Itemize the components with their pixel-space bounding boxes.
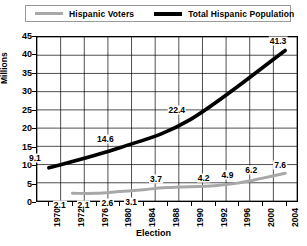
x-tick-mark	[143, 202, 144, 206]
point-label: 9.1	[28, 154, 42, 163]
plot-area	[36, 36, 298, 202]
legend-entry-total-hispanic-population: Total Hispanic Population	[154, 9, 294, 19]
x-tick-label: 2000	[266, 208, 276, 227]
x-tick-mark	[119, 202, 120, 206]
point-label: 4.9	[221, 170, 235, 179]
y-tick-label: 45	[8, 31, 32, 41]
black-line-swatch-icon	[154, 12, 182, 16]
x-tick-label: 1980	[123, 208, 133, 227]
x-tick-mark	[215, 202, 216, 206]
point-label: 22.4	[168, 106, 187, 115]
x-tick-mark	[167, 202, 168, 206]
x-tick-mark	[96, 202, 97, 206]
x-tick-mark	[262, 202, 263, 206]
y-tick-label: 0	[8, 197, 32, 207]
point-label: 3.1	[124, 197, 138, 206]
x-tick-mark	[72, 202, 73, 206]
point-label: 41.3	[269, 36, 288, 45]
hispanic-voters-population-chart: Hispanic Voters Total Hispanic Populatio…	[0, 0, 307, 246]
x-tick-label: 1984	[147, 208, 157, 227]
x-tick-label: 2004	[290, 208, 300, 227]
y-tick-label: 30	[8, 86, 32, 96]
y-tick-label: 5	[8, 179, 32, 189]
point-label: 14.6	[96, 135, 115, 144]
y-tick-label: 20	[8, 123, 32, 133]
x-tick-label: 1972	[76, 208, 86, 227]
series-line-hispanic-voters	[72, 173, 285, 193]
x-tick-mark	[48, 202, 49, 206]
x-tick-label: 1970	[52, 208, 62, 227]
y-tick-mark	[32, 202, 36, 203]
legend-label-total-hispanic-population: Total Hispanic Population	[188, 9, 294, 19]
point-label: 7.6	[273, 160, 287, 169]
x-tick-mark	[191, 202, 192, 206]
x-tick-mark	[286, 202, 287, 206]
x-tick-mark	[238, 202, 239, 206]
x-tick-label: 1988	[171, 208, 181, 227]
gray-line-swatch-icon	[35, 12, 63, 15]
x-tick-label: 1976	[100, 208, 110, 227]
x-tick-label: 1996	[242, 208, 252, 227]
legend-label-hispanic-voters: Hispanic Voters	[69, 9, 134, 19]
x-axis-title: Election	[0, 228, 307, 238]
x-tick-label: 1990	[195, 208, 205, 227]
legend-entry-hispanic-voters: Hispanic Voters	[35, 9, 134, 19]
point-label: 2.6	[100, 199, 114, 208]
point-label: 6.2	[244, 166, 258, 175]
chart-legend: Hispanic Voters Total Hispanic Populatio…	[25, 5, 291, 22]
point-label: 4.2	[197, 173, 211, 182]
y-tick-label: 25	[8, 105, 32, 115]
point-label: 3.7	[149, 175, 163, 184]
y-tick-label: 40	[8, 49, 32, 59]
y-tick-label: 35	[8, 68, 32, 78]
chart-series-lines	[37, 37, 297, 201]
x-tick-label: 1992	[219, 208, 229, 227]
y-tick-label: 15	[8, 142, 32, 152]
